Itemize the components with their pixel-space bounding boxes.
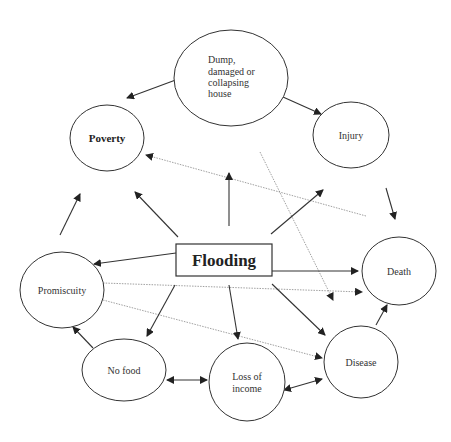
node-loss-of-income: Loss of income: [209, 343, 285, 421]
node-label: Poverty: [89, 132, 126, 144]
edge-flooding-poverty: [135, 192, 178, 237]
node-label: Loss of: [232, 371, 262, 382]
node-injury: Injury: [313, 102, 389, 168]
edge-lossincome-disease: [284, 379, 322, 390]
node-label: collapsing: [208, 77, 249, 88]
node-poverty: Poverty: [70, 105, 144, 171]
edge-promiscuity-poverty: [60, 194, 80, 235]
node-label: Disease: [345, 357, 377, 368]
node-label: Injury: [339, 130, 363, 141]
node-no-food: No food: [82, 339, 166, 401]
node-label: Dump,: [208, 54, 236, 65]
node-label: No food: [107, 365, 140, 376]
node-label: house: [208, 88, 232, 99]
edge-flooding-lossincome: [229, 285, 238, 339]
flooding-label: Flooding: [192, 251, 257, 270]
node-promiscuity: Promiscuity: [20, 252, 104, 328]
edge-flooding-promiscuity: [94, 253, 176, 264]
flooding-diagram: Dump, damaged or collapsing house Povert…: [0, 0, 451, 442]
node-label: damaged or: [208, 66, 256, 77]
edge-promiscuity-death: [103, 283, 362, 292]
edge-dump-poverty: [127, 78, 181, 98]
node-disease: Disease: [324, 326, 398, 398]
edge-disease-death: [376, 305, 387, 325]
edge-dotted-to-disease: [260, 152, 333, 300]
edge-dump-injury: [283, 97, 321, 114]
node-dump: Dump, damaged or collapsing house: [174, 30, 288, 126]
edge-nofood-promiscuity: [73, 327, 93, 348]
edge-injury-death: [386, 188, 395, 219]
edge-flooding-nofood: [147, 285, 175, 336]
node-label: Promiscuity: [38, 285, 86, 296]
node-label: income: [232, 383, 262, 394]
edge-flooding-disease: [272, 284, 325, 335]
node-label: Death: [387, 266, 411, 277]
node-flooding: Flooding: [176, 244, 272, 276]
node-death: Death: [362, 237, 436, 305]
